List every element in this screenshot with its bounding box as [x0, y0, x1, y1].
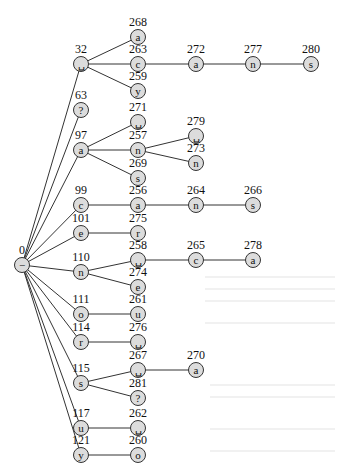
trie-node-256: a256 — [129, 183, 147, 213]
edge-0-110 — [22, 265, 81, 272]
node-symbol: y — [78, 449, 84, 461]
node-code-label: 0 — [19, 243, 25, 257]
node-code-label: 263 — [129, 42, 147, 56]
trie-node-269: s269 — [129, 156, 147, 186]
trie-node-257: n257 — [129, 128, 147, 158]
node-code-label: 279 — [187, 114, 205, 128]
trie-node-267: ␣267 — [129, 348, 147, 378]
trie-svg: −0␣32?63a97c99e101n110o111r114s115u117y1… — [0, 0, 337, 473]
node-code-label: 258 — [129, 238, 147, 252]
trie-node-111: o111 — [72, 292, 89, 322]
node-symbol: a — [136, 199, 141, 211]
node-code-label: 261 — [129, 292, 147, 306]
node-code-label: 280 — [302, 42, 320, 56]
node-symbol: n — [78, 266, 84, 278]
node-code-label: 97 — [75, 128, 87, 142]
node-code-label: 265 — [187, 238, 205, 252]
node-symbol: s — [251, 199, 255, 211]
node-symbol: a — [251, 254, 256, 266]
node-code-label: 63 — [75, 88, 87, 102]
trie-node-281: ?281 — [129, 376, 147, 406]
node-code-label: 259 — [129, 69, 147, 83]
trie-node-263: c263 — [129, 42, 147, 72]
node-symbol: o — [135, 449, 141, 461]
node-symbol: r — [79, 336, 83, 348]
node-symbol: u — [135, 308, 141, 320]
node-code-label: 281 — [129, 376, 147, 390]
trie-node-265: c265 — [187, 238, 205, 268]
node-code-label: 111 — [72, 292, 89, 306]
trie-node-97: a97 — [74, 128, 89, 158]
trie-node-275: r275 — [129, 211, 147, 241]
trie-node-266: s266 — [244, 183, 262, 213]
trie-node-271: ␣271 — [129, 100, 147, 130]
node-code-label: 101 — [72, 211, 90, 225]
trie-node-276: ␣276 — [129, 320, 147, 350]
trie-node-261: u261 — [129, 292, 147, 322]
node-symbol: n — [193, 157, 199, 169]
node-code-label: 257 — [129, 128, 147, 142]
node-symbol: e — [79, 227, 84, 239]
node-symbol: − — [19, 259, 25, 271]
node-symbol: n — [250, 58, 256, 70]
node-symbol: y — [135, 85, 141, 97]
node-symbol: c — [194, 254, 199, 266]
trie-diagram: −0␣32?63a97c99e101n110o111r114s115u117y1… — [0, 0, 337, 473]
trie-node-101: e101 — [72, 211, 90, 241]
trie-node-258: ␣258 — [129, 238, 147, 268]
trie-node-63: ?63 — [74, 88, 89, 118]
node-symbol: ? — [79, 104, 84, 116]
node-symbol: n — [193, 199, 199, 211]
node-code-label: 256 — [129, 183, 147, 197]
node-symbol: n — [135, 144, 141, 156]
nodes-group: −0␣32?63a97c99e101n110o111r114s115u117y1… — [15, 15, 321, 463]
node-code-label: 267 — [129, 348, 147, 362]
node-symbol: s — [79, 377, 83, 389]
node-code-label: 114 — [72, 320, 90, 334]
node-code-label: 272 — [187, 42, 205, 56]
node-code-label: 276 — [129, 320, 147, 334]
trie-node-280: s280 — [302, 42, 320, 72]
node-symbol: ? — [136, 392, 141, 404]
trie-node-260: o260 — [129, 433, 147, 463]
edges-group — [22, 37, 311, 455]
node-code-label: 275 — [129, 211, 147, 225]
node-symbol: ␣ — [78, 58, 85, 71]
node-code-label: 99 — [75, 183, 87, 197]
trie-node-273: n273 — [187, 141, 205, 171]
node-code-label: 32 — [75, 42, 87, 56]
node-code-label: 271 — [129, 100, 147, 114]
trie-node-121: y121 — [72, 433, 90, 463]
node-symbol: a — [79, 144, 84, 156]
node-code-label: 121 — [72, 433, 90, 447]
trie-node-279: ␣279 — [187, 114, 205, 144]
trie-node-117: u117 — [72, 406, 90, 436]
trie-node-115: s115 — [72, 361, 90, 391]
node-code-label: 273 — [187, 141, 205, 155]
edge-0-63 — [22, 110, 81, 265]
trie-node-264: n264 — [187, 183, 205, 213]
trie-node-278: a278 — [244, 238, 262, 268]
node-code-label: 269 — [129, 156, 147, 170]
node-symbol: s — [309, 58, 313, 70]
node-symbol: a — [194, 58, 199, 70]
trie-node-272: a272 — [187, 42, 205, 72]
node-code-label: 270 — [187, 348, 205, 362]
node-code-label: 274 — [129, 265, 147, 279]
node-code-label: 115 — [72, 361, 90, 375]
node-code-label: 277 — [244, 42, 262, 56]
trie-node-262: ␣262 — [129, 406, 147, 436]
node-code-label: 260 — [129, 433, 147, 447]
node-code-label: 266 — [244, 183, 262, 197]
trie-node-110: n110 — [72, 250, 90, 280]
trie-node-274: e274 — [129, 265, 147, 295]
node-code-label: 110 — [72, 250, 90, 264]
trie-node-270: a270 — [187, 348, 205, 378]
node-code-label: 264 — [187, 183, 205, 197]
trie-node-268: a268 — [129, 15, 147, 45]
node-symbol: a — [194, 364, 199, 376]
trie-node-32: ␣32 — [74, 42, 89, 72]
node-code-label: 268 — [129, 15, 147, 29]
trie-node-99: c99 — [74, 183, 89, 213]
trie-node-259: y259 — [129, 69, 147, 99]
